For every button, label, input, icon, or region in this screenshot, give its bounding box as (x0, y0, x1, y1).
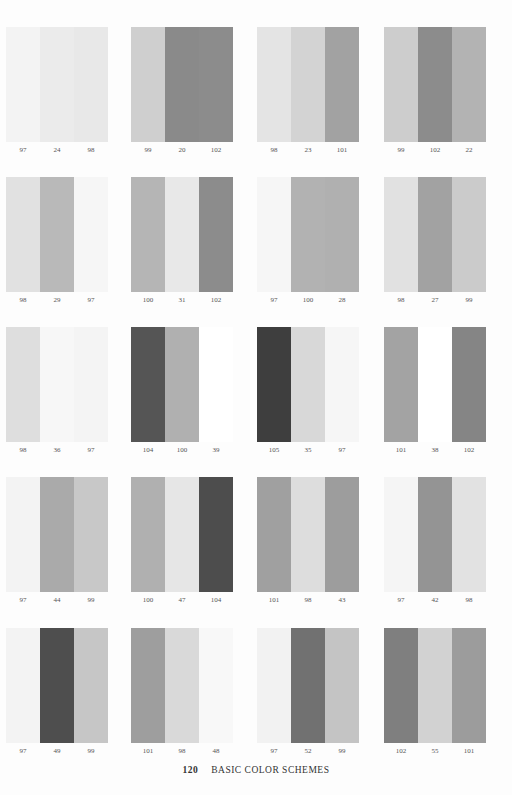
page-caption: 120 BASIC COLOR SCHEMES (0, 765, 512, 775)
color-scheme-swatch-group: 982997 (6, 177, 108, 305)
color-scheme-swatch-group: 1019848 (131, 628, 233, 756)
color-swatch (165, 628, 199, 743)
swatch-number-label: 97 (257, 295, 291, 305)
swatch-stripes (6, 177, 108, 292)
color-swatch (325, 177, 359, 292)
swatch-number-label: 101 (452, 746, 486, 756)
swatch-labels: 9710028 (257, 295, 359, 305)
swatch-number-label: 49 (40, 746, 74, 756)
color-swatch (199, 27, 233, 142)
swatch-labels: 10410039 (131, 445, 233, 455)
color-swatch (291, 177, 325, 292)
color-swatch (74, 27, 108, 142)
swatch-stripes (384, 327, 486, 442)
swatch-number-label: 28 (325, 295, 359, 305)
swatch-number-label: 36 (40, 445, 74, 455)
color-scheme-swatch-group: 10031102 (131, 177, 233, 305)
swatch-number-label: 100 (165, 445, 199, 455)
swatch-number-label: 97 (74, 445, 108, 455)
color-swatch (199, 327, 233, 442)
swatch-stripes (384, 177, 486, 292)
swatch-number-label: 101 (257, 595, 291, 605)
swatch-number-label: 97 (325, 445, 359, 455)
color-swatch (325, 477, 359, 592)
color-swatch (291, 27, 325, 142)
swatch-labels: 10031102 (131, 295, 233, 305)
swatch-stripes (384, 27, 486, 142)
color-swatch (325, 628, 359, 743)
swatch-number-label: 100 (131, 295, 165, 305)
swatch-number-label: 101 (131, 746, 165, 756)
swatch-stripes (384, 628, 486, 743)
color-swatch (199, 177, 233, 292)
swatch-number-label: 98 (74, 145, 108, 155)
swatch-number-label: 99 (452, 295, 486, 305)
swatch-number-label: 27 (418, 295, 452, 305)
swatch-number-label: 24 (40, 145, 74, 155)
swatch-number-label: 105 (257, 445, 291, 455)
color-swatch (165, 177, 199, 292)
swatch-stripes (384, 477, 486, 592)
color-scheme-swatch-group: 9823101 (257, 27, 359, 155)
swatch-labels: 972498 (6, 145, 108, 155)
color-swatch (6, 177, 40, 292)
color-swatch (418, 327, 452, 442)
color-swatch (257, 477, 291, 592)
color-swatch (452, 628, 486, 743)
color-swatch (384, 27, 418, 142)
color-swatch (40, 27, 74, 142)
swatch-labels: 983697 (6, 445, 108, 455)
swatch-labels: 9823101 (257, 145, 359, 155)
swatch-number-label: 102 (199, 295, 233, 305)
swatch-number-label: 98 (384, 295, 418, 305)
swatch-stripes (257, 27, 359, 142)
color-scheme-swatch-group: 10255101 (384, 628, 486, 756)
swatch-number-label: 100 (291, 295, 325, 305)
color-swatch (291, 327, 325, 442)
color-swatch (131, 327, 165, 442)
swatch-stripes (131, 628, 233, 743)
swatch-number-label: 55 (418, 746, 452, 756)
color-swatch (165, 27, 199, 142)
color-scheme-swatch-group: 1053597 (257, 327, 359, 455)
color-scheme-swatch-group: 983697 (6, 327, 108, 455)
color-swatch (199, 477, 233, 592)
swatch-number-label: 99 (74, 746, 108, 756)
swatch-labels: 975299 (257, 746, 359, 756)
swatch-number-label: 47 (165, 595, 199, 605)
color-scheme-swatch-group: 9910222 (384, 27, 486, 155)
color-scheme-swatch-group: 10047104 (131, 477, 233, 605)
color-swatch (384, 177, 418, 292)
swatch-stripes (6, 628, 108, 743)
color-swatch (6, 628, 40, 743)
swatch-number-label: 97 (6, 145, 40, 155)
swatch-number-label: 29 (40, 295, 74, 305)
color-swatch (257, 177, 291, 292)
swatch-number-label: 98 (452, 595, 486, 605)
swatch-number-label: 101 (384, 445, 418, 455)
swatch-stripes (131, 477, 233, 592)
swatch-stripes (257, 327, 359, 442)
color-swatch (291, 477, 325, 592)
swatch-number-label: 23 (291, 145, 325, 155)
color-swatch (40, 477, 74, 592)
color-swatch (6, 477, 40, 592)
color-swatch (131, 477, 165, 592)
swatch-number-label: 98 (257, 145, 291, 155)
color-swatch (257, 327, 291, 442)
color-swatch (325, 27, 359, 142)
page-title: BASIC COLOR SCHEMES (211, 765, 329, 775)
swatch-number-label: 48 (199, 746, 233, 756)
swatch-number-label: 97 (6, 595, 40, 605)
color-scheme-swatch-group: 975299 (257, 628, 359, 756)
color-swatch (452, 177, 486, 292)
swatch-number-label: 44 (40, 595, 74, 605)
swatch-number-label: 100 (131, 595, 165, 605)
swatch-labels: 982997 (6, 295, 108, 305)
swatch-number-label: 99 (384, 145, 418, 155)
swatch-stripes (6, 27, 108, 142)
swatch-number-label: 22 (452, 145, 486, 155)
color-swatch (131, 628, 165, 743)
color-swatch (131, 27, 165, 142)
swatch-number-label: 52 (291, 746, 325, 756)
